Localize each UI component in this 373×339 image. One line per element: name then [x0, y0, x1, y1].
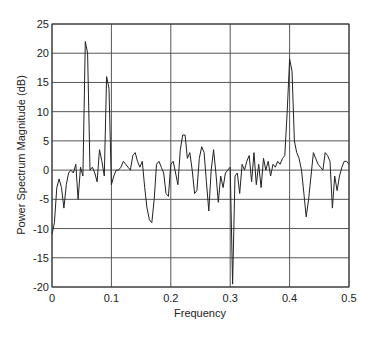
power-spectrum-chart: 00.10.20.30.40.5 2520151050-5-10-15-20 F… [0, 0, 373, 339]
y-tick-label: -5 [39, 193, 49, 205]
plot-frame [52, 24, 349, 287]
y-tick-label: -10 [33, 223, 49, 235]
y-tick-label: -15 [33, 252, 49, 264]
y-axis-label: Power Spectrum Magnitude (dB) [15, 75, 27, 235]
y-tick-label: 20 [37, 47, 49, 59]
grid-lines [52, 24, 349, 287]
x-tick-label: 0.2 [163, 292, 178, 304]
spectrum-line [52, 42, 349, 285]
x-tick-labels: 00.10.20.30.40.5 [49, 292, 357, 304]
y-tick-label: 25 [37, 18, 49, 30]
y-tick-label: 15 [37, 76, 49, 88]
y-tick-label: 5 [43, 135, 49, 147]
x-tick-label: 0.1 [104, 292, 119, 304]
x-tick-label: 0.5 [341, 292, 356, 304]
x-axis-label: Frequency [174, 307, 226, 319]
y-tick-label: -20 [33, 281, 49, 293]
y-tick-label: 10 [37, 106, 49, 118]
x-tick-label: 0 [49, 292, 55, 304]
y-tick-labels: 2520151050-5-10-15-20 [33, 18, 49, 293]
y-tick-label: 0 [43, 164, 49, 176]
x-tick-label: 0.3 [223, 292, 238, 304]
x-tick-label: 0.4 [282, 292, 297, 304]
